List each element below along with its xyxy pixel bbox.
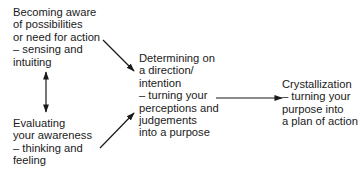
node-line: – turning your xyxy=(139,89,219,101)
node-line: – sensing and xyxy=(13,43,100,55)
node-line: – turning your xyxy=(282,90,358,102)
node-line: perceptions and xyxy=(139,102,219,114)
node-evaluating: Evaluating your awareness – thinking and… xyxy=(13,117,92,167)
node-line: Crystallization xyxy=(282,78,358,90)
node-line: Becoming aware xyxy=(13,6,100,18)
node-line: your awareness xyxy=(13,129,92,141)
node-line: Evaluating xyxy=(13,117,92,129)
node-line: judgements xyxy=(139,114,219,126)
node-line: intuiting xyxy=(13,56,100,68)
arrow-aware-determining xyxy=(103,40,134,71)
node-line: a plan of action xyxy=(282,115,358,127)
node-line: or need for action xyxy=(13,31,100,43)
node-becoming-aware: Becoming aware of possibilities or need … xyxy=(13,6,100,68)
node-line: of possibilities xyxy=(13,18,100,30)
node-determining: Determining on a direction/ intention – … xyxy=(139,52,219,139)
node-crystallization: Crystallization – turning your purpose i… xyxy=(282,78,358,128)
node-line: Determining on xyxy=(139,52,219,64)
node-line: a direction/ xyxy=(139,64,219,76)
arrow-evaluating-determining xyxy=(100,113,134,148)
node-line: intention xyxy=(139,77,219,89)
node-line: – thinking and xyxy=(13,142,92,154)
node-line: into a purpose xyxy=(139,126,219,138)
node-line: feeling xyxy=(13,154,92,166)
node-line: purpose into xyxy=(282,103,358,115)
